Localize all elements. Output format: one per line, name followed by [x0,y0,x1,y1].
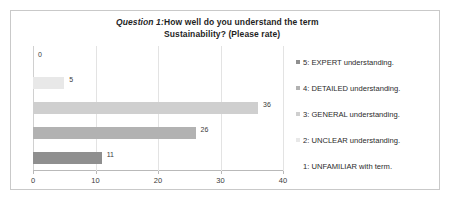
legend-item[interactable]: 4: DETAILED understanding. [296,83,400,95]
x-tick-mark [33,171,34,174]
chart-title-line-1: How well do you understand the term [164,17,319,27]
x-tick-label: 40 [279,176,287,185]
legend-item-label: 5: EXPERT understanding. [303,58,394,67]
x-tick-mark [158,171,159,174]
legend-swatch-icon [296,60,300,64]
bar-row: 26 [33,121,283,146]
plot-inner: 05362611 [33,46,283,171]
bar[interactable] [33,77,64,89]
legend-item[interactable]: 3: GENERAL understanding. [296,109,400,121]
x-tick-label: 0 [31,176,35,185]
x-axis: 010203040 [23,174,285,190]
chart-legend: 5: EXPERT understanding.4: DETAILED unde… [296,57,448,185]
chart-title-question-label: Question 1: [116,17,164,29]
x-tick-mark [221,171,222,174]
legend-swatch-icon [296,112,300,116]
chart-title-line-2: Sustainability? (Please rate) [164,29,280,39]
legend-item[interactable]: 1: UNFAMILIAR with term. [296,161,392,173]
legend-swatch-icon [296,164,300,168]
chart-frame: Question 1:How well do you understand th… [10,10,440,190]
x-axis-ticks: 010203040 [33,174,283,190]
x-tick-mark [283,171,284,174]
legend-item[interactable]: 5: EXPERT understanding. [296,57,394,69]
bar-value-label: 36 [263,101,271,108]
gridline-40 [283,46,284,171]
bar-row: 0 [33,46,283,71]
plot-area: 05362611 [23,46,285,171]
x-tick-label: 30 [216,176,224,185]
legend-item-label: 1: UNFAMILIAR with term. [303,162,392,171]
bar-value-label: 5 [69,76,73,83]
bar-value-label: 26 [201,126,209,133]
x-tick-label: 10 [91,176,99,185]
bar[interactable] [33,102,258,114]
bar[interactable] [33,127,196,139]
legend-item-label: 3: GENERAL understanding. [303,110,400,119]
legend-swatch-icon [296,138,300,142]
bar-row: 36 [33,96,283,121]
bar-value-label: 0 [38,51,42,58]
legend-item-label: 2: UNCLEAR understanding. [303,136,400,145]
legend-swatch-icon [296,86,300,90]
x-tick-mark [96,171,97,174]
bar-row: 5 [33,71,283,96]
bar-value-label: 11 [107,151,114,158]
x-tick-label: 20 [154,176,162,185]
chart-title: Question 1:How well do you understand th… [116,17,396,40]
bar-row: 11 [33,146,283,171]
chart-title-question-text: How well do you understand the termSusta… [164,17,374,40]
legend-item[interactable]: 2: UNCLEAR understanding. [296,135,400,147]
legend-item-label: 4: DETAILED understanding. [303,84,400,93]
bar[interactable] [33,152,102,164]
